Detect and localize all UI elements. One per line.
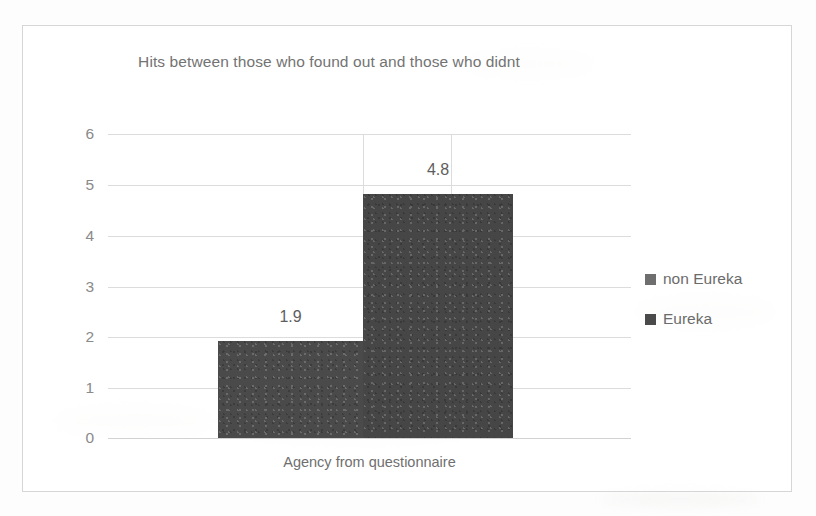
legend-swatch-icon (645, 274, 656, 285)
y-tick-label: 1 (85, 379, 94, 397)
bar-texture (363, 194, 513, 438)
bar-texture (218, 341, 363, 438)
x-axis-title: Agency from questionnaire (108, 454, 631, 470)
y-tick-label: 4 (85, 227, 94, 245)
y-tick-label: 0 (85, 429, 94, 447)
bar-value-label: 4.8 (427, 161, 449, 179)
chart-legend: non Eureka Eureka (645, 266, 742, 346)
bar-non-eureka[interactable]: 1.9 (218, 341, 363, 438)
legend-swatch-icon (645, 314, 656, 325)
chart-container: Hits between those who found out and tho… (22, 25, 792, 492)
legend-item-label: non Eureka (663, 270, 742, 288)
gridline-6: 6 (108, 134, 631, 135)
plot-area: 6 5 4 3 2 1 0 1.9 4.8 (108, 134, 631, 439)
legend-item-non-eureka[interactable]: non Eureka (645, 266, 742, 292)
legend-item-eureka[interactable]: Eureka (645, 306, 742, 332)
bar-eureka[interactable]: 4.8 (363, 194, 513, 438)
chart-title: Hits between those who found out and tho… (23, 53, 635, 71)
y-tick-label: 2 (85, 328, 94, 346)
scan-artifact (600, 492, 760, 506)
y-tick-label: 5 (85, 176, 94, 194)
bar-value-label: 1.9 (279, 308, 301, 326)
x-axis-baseline: 0 (108, 438, 631, 439)
y-tick-label: 3 (85, 278, 94, 296)
legend-item-label: Eureka (663, 310, 712, 328)
gridline-5: 5 (108, 185, 631, 186)
y-tick-label: 6 (85, 125, 94, 143)
